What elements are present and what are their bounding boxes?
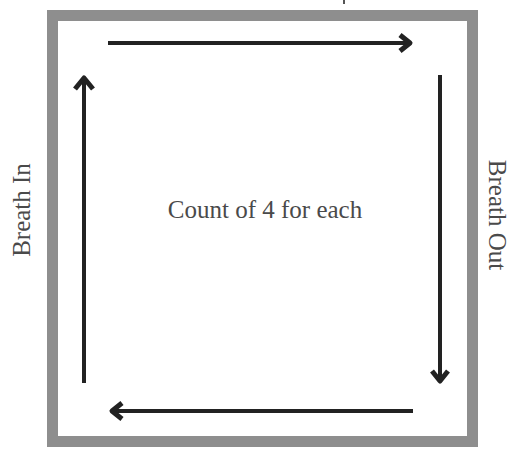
breathing-cycle-arrows: [0, 0, 516, 449]
breath-out-label: Breath Out: [483, 160, 511, 270]
center-instruction: Count of 4 for each: [140, 196, 390, 224]
arrow-left-icon: [112, 403, 413, 419]
arrow-right-icon: [108, 35, 410, 51]
arrow-down-icon: [432, 75, 448, 381]
breath-in-label: Breath In: [8, 163, 36, 257]
arrow-up-icon: [75, 78, 93, 383]
